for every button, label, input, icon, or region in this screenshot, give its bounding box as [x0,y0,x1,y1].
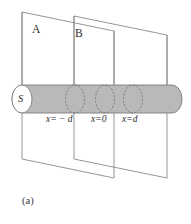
figure-container: A B S x= − d x=0 x=d (a) [0,0,191,224]
axis-label-zero: x=0 [91,115,106,125]
figure-caption: (a) [22,196,34,207]
plane-a-label: A [32,24,40,36]
axis-label-plus-d: x=d [122,115,137,125]
source-label: S [18,94,23,105]
cylinder-body [12,85,182,113]
axis-label-minus-d: x= − d [46,115,73,125]
plane-b-label: B [75,28,83,40]
figure-drawing [0,0,191,224]
